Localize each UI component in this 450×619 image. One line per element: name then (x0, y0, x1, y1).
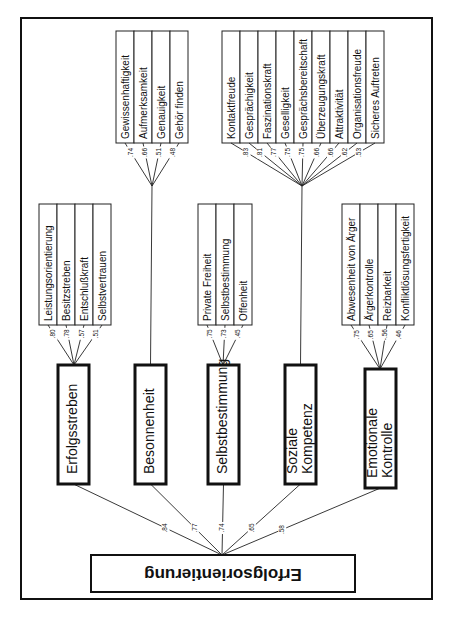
sub-trait-soziale-kompetenz-4: Gesprächsbereitschaft.75 (294, 31, 312, 186)
root-label: Erfolgsorientierung (144, 565, 302, 584)
sub-trait-loading: .66 (313, 148, 320, 157)
sub-trait-label: Besitzstreben (61, 260, 72, 321)
sub-trait-label: Gehör finden (174, 81, 185, 139)
sub-trait-label: Reizbarkeit (382, 271, 393, 321)
sub-trait-label: Gewissenhaftigkeit (120, 55, 131, 139)
sub-trait-label: Geselligkeit (280, 87, 291, 139)
sub-trait-loading: .48 (169, 148, 176, 157)
factor-group-erfolgsstreben: Leistungsorientierung.80Besitzstreben.78… (39, 204, 222, 555)
sub-trait-loading: .66 (327, 148, 334, 157)
factor-group-selbstbestimmung: Private Freiheit.75Selbstbestimmung.73Of… (198, 204, 252, 555)
diagram-canvas: Leistungsorientierung.80Besitzstreben.78… (0, 0, 450, 619)
factor-label: Soziale (284, 428, 300, 474)
sub-trait-label: Kontaktfreude (226, 76, 237, 139)
sub-trait-label: Faszinationskraft (262, 63, 273, 139)
sub-trait-loading: .62 (341, 148, 348, 157)
sub-trait-loading: .83 (242, 148, 249, 157)
factor-loading: .77 (191, 523, 198, 532)
sub-trait-loading: .46 (395, 330, 402, 339)
sub-trait-label: Ärgerkontrolle (364, 258, 375, 321)
factor-label: Selbstbestimmung (214, 359, 230, 474)
sub-trait-label: Aufmerksamkeit (138, 67, 149, 139)
sub-trait-label: Abwesenheit von Ärger (346, 217, 357, 321)
sub-trait-besonnenheit-2: Genauigkeit.51 (152, 31, 170, 186)
sub-trait-label: Sicheres Auftreten (370, 57, 381, 139)
sub-trait-loading: .65 (367, 330, 374, 339)
sub-trait-label: Private Freiheit (202, 254, 213, 321)
sub-trait-emotionale-kontrolle-2: Reizbarkeit-.56 (378, 204, 396, 369)
sub-trait-erfolgsstreben-2: Entschlußkraft.57 (74, 204, 93, 365)
sub-trait-loading: .74 (127, 148, 134, 157)
factor-label: Kontrolle (379, 423, 395, 478)
root-node: Erfolgsorientierung (91, 555, 355, 592)
sub-trait-loading: .75 (298, 148, 305, 157)
edge-root-soziale-kompetenz (222, 484, 301, 555)
sub-trait-label: Konfliktlösungsfertigkeit (400, 216, 411, 321)
factor-label: Erfolgsstreben (64, 384, 80, 474)
edge-stem-besonnenheit (151, 186, 153, 365)
sub-trait-label: Organisationsfreude (352, 49, 363, 139)
sub-trait-loading: .51 (155, 148, 162, 157)
sub-trait-label: Leistungsorientierung (43, 225, 54, 321)
edge-root-emotionale-kontrolle (222, 488, 381, 555)
sub-trait-loading: .75 (206, 329, 213, 338)
sub-trait-label: Attraktivität (334, 89, 345, 139)
edge-root-selbstbestimmung (222, 484, 224, 555)
sub-trait-loading: .45 (234, 329, 241, 338)
sub-trait-selbstbestimmung-1: Selbstbestimmung.73 (216, 204, 234, 365)
factor-label: Besonnenheit (141, 388, 157, 474)
sub-trait-erfolgsstreben-1: Besitzstreben.78 (57, 204, 75, 365)
sub-trait-besonnenheit-1: Aufmerksamkeit.66 (134, 31, 152, 186)
factor-label: Kompetenz (299, 403, 315, 474)
sub-trait-emotionale-kontrolle-1: Ärgerkontrolle.65 (360, 204, 380, 369)
edge-root-erfolgsstreben (74, 484, 223, 555)
factor-loading: .58 (278, 525, 285, 534)
factor-loading: .65 (248, 523, 255, 532)
sub-trait-label: Gesprächsbereitschaft (298, 39, 309, 139)
sub-trait-loading: .53 (355, 148, 362, 157)
sub-trait-loading: .77 (270, 148, 277, 157)
factor-tree-diagram: Leistungsorientierung.80Besitzstreben.78… (0, 0, 450, 619)
sub-trait-loading: .81 (256, 148, 263, 157)
factor-label: Emotionale (364, 408, 380, 478)
sub-trait-label: Überzeugungskraft (316, 54, 327, 139)
sub-trait-loading: .66 (141, 148, 148, 157)
sub-trait-loading: -.56 (381, 329, 388, 341)
sub-trait-label: Selbstvertrauen (97, 251, 108, 321)
sub-trait-label: Selbstbestimmung (220, 239, 231, 321)
sub-trait-loading: .80 (49, 329, 56, 338)
sub-trait-label: Genauigkeit (156, 85, 167, 139)
edge-root-besonnenheit (151, 484, 223, 555)
sub-trait-loading: .51 (92, 329, 99, 338)
sub-trait-loading: .75 (353, 330, 360, 339)
sub-trait-label: Gesprächigkeit (244, 72, 255, 139)
sub-trait-loading: .57 (78, 329, 85, 338)
sub-trait-label: Entschlußkraft (79, 257, 90, 321)
sub-trait-label: Offenheit (238, 280, 249, 321)
edge-stem-soziale-kompetenz (301, 186, 303, 365)
sub-trait-loading: .75 (284, 148, 291, 157)
factor-loading: .74 (218, 523, 225, 532)
sub-trait-loading: .78 (63, 329, 70, 338)
factor-loading: .84 (161, 523, 168, 532)
sub-trait-loading: .73 (220, 329, 227, 338)
